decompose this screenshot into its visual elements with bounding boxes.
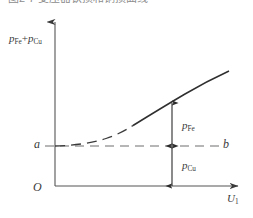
y-axis-label: pFe+pCu: [9, 32, 42, 46]
pcu-segment-label: pCu: [182, 159, 196, 173]
x-axis-label-sub-1: 1: [235, 198, 239, 206]
origin-label: O: [33, 180, 42, 195]
pfe-segment-label: pFe: [182, 119, 195, 133]
x-axis-label: U1: [227, 192, 239, 206]
y-axis-label-sub-fe: Fe: [15, 38, 22, 46]
pcu-label-sub: Cu: [188, 165, 196, 173]
pfe-label-sub: Fe: [188, 125, 195, 133]
figure-container: 图2-7 变压器铁损和铜损曲线: [0, 0, 253, 218]
total-loss-curve-dashed-part: [55, 126, 133, 147]
y-axis-label-sub-cu: Cu: [33, 38, 41, 46]
point-b-label: b: [223, 137, 229, 152]
x-axis-label-u: U: [227, 192, 235, 204]
total-loss-curve-solid-part: [133, 71, 229, 126]
point-a-label: a: [34, 137, 40, 152]
